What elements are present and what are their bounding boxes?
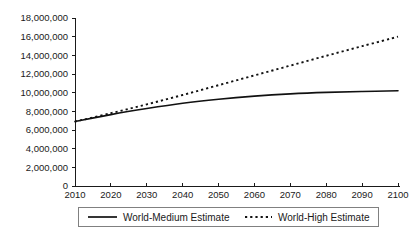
x-axis-tick-label: 2020 bbox=[100, 189, 121, 200]
x-axis-tick-label: 2040 bbox=[172, 189, 193, 200]
x-axis-tick-label: 2070 bbox=[280, 189, 301, 200]
plot-series-group bbox=[75, 37, 398, 122]
x-axis-tick-label: 2010 bbox=[64, 189, 85, 200]
y-axis-tick-label: 16,000,000 bbox=[20, 31, 68, 42]
x-axis-tick-label: 2030 bbox=[136, 189, 157, 200]
chart-canvas: 02,000,0004,000,0006,000,0008,000,00010,… bbox=[0, 0, 416, 238]
y-axis-tick-labels: 02,000,0004,000,0006,000,0008,000,00010,… bbox=[20, 12, 68, 191]
y-axis-tick-marks bbox=[72, 18, 76, 186]
x-axis-tick-label: 2080 bbox=[316, 189, 337, 200]
x-axis-tick-labels: 2010202020302040205020602070208020902100 bbox=[64, 189, 408, 200]
y-axis-group: 02,000,0004,000,0006,000,0008,000,00010,… bbox=[20, 12, 75, 191]
x-axis-tick-label: 2090 bbox=[352, 189, 373, 200]
y-axis-tick-label: 18,000,000 bbox=[20, 12, 68, 23]
series-line-world-medium-estimate bbox=[75, 91, 398, 122]
x-axis-tick-marks bbox=[75, 183, 398, 187]
legend-label-world-high-estimate: World-High Estimate bbox=[278, 212, 370, 223]
y-axis-tick-label: 4,000,000 bbox=[26, 143, 68, 154]
legend: World-Medium Estimate World-High Estimat… bbox=[79, 208, 379, 227]
legend-label-world-medium-estimate: World-Medium Estimate bbox=[123, 212, 230, 223]
y-axis-tick-label: 6,000,000 bbox=[26, 124, 68, 135]
population-projection-chart: 02,000,0004,000,0006,000,0008,000,00010,… bbox=[0, 0, 416, 238]
y-axis-tick-label: 14,000,000 bbox=[20, 50, 68, 61]
x-axis-tick-label: 2050 bbox=[208, 189, 229, 200]
x-axis-group: 2010202020302040205020602070208020902100 bbox=[64, 183, 408, 200]
y-axis-tick-label: 12,000,000 bbox=[20, 68, 68, 79]
y-axis-tick-label: 10,000,000 bbox=[20, 87, 68, 98]
x-axis-tick-label: 2060 bbox=[244, 189, 265, 200]
series-line-world-high-estimate bbox=[75, 37, 398, 122]
y-axis-tick-label: 8,000,000 bbox=[26, 106, 68, 117]
y-axis-tick-label: 2,000,000 bbox=[26, 162, 68, 173]
x-axis-tick-label: 2100 bbox=[387, 189, 408, 200]
